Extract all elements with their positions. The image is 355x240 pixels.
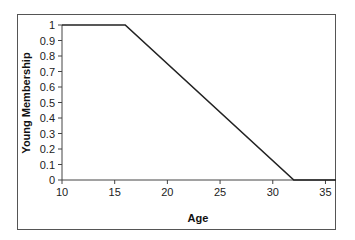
x-tick-label: 35 <box>319 186 331 198</box>
y-tick-label: 0.3 <box>40 128 55 140</box>
y-tick-label: 0 <box>49 174 55 186</box>
y-tick-label: 0.7 <box>40 66 55 78</box>
x-tick-label: 20 <box>161 186 173 198</box>
membership-line <box>62 25 336 180</box>
y-tick-label: 0.5 <box>40 97 55 109</box>
x-tick-label: 10 <box>56 186 68 198</box>
y-tick-label: 1 <box>49 19 55 31</box>
y-tick-label: 0.6 <box>40 81 55 93</box>
x-tick-label: 25 <box>214 186 226 198</box>
x-axis-title: Age <box>188 212 209 224</box>
y-tick-label: 0.2 <box>40 143 55 155</box>
y-axis-ticks: 00.10.20.30.40.50.60.70.80.91 <box>40 19 62 186</box>
axes <box>62 25 336 180</box>
y-axis-title: Young Membership <box>20 52 32 154</box>
y-tick-label: 0.9 <box>40 35 55 47</box>
y-tick-label: 0.1 <box>40 159 55 171</box>
x-axis-ticks: 101520253035 <box>56 180 332 198</box>
line-chart: 00.10.20.30.40.50.60.70.80.91 1015202530… <box>0 0 355 240</box>
x-tick-label: 30 <box>267 186 279 198</box>
x-tick-label: 15 <box>109 186 121 198</box>
y-tick-label: 0.8 <box>40 50 55 62</box>
y-tick-label: 0.4 <box>40 112 55 124</box>
